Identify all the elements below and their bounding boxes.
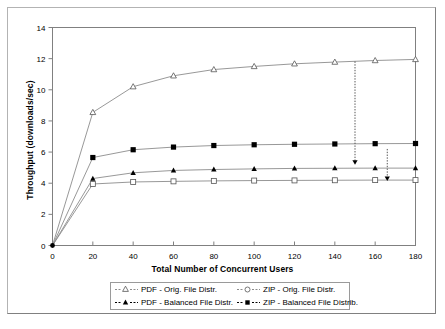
annotation-arrow-head (352, 160, 357, 165)
y-tick-label: 2 (41, 210, 46, 219)
series-1 (53, 178, 419, 246)
legend-entry-pdf-orig: PDF - Orig. File Distr. (111, 284, 233, 295)
y-tick-label: 10 (37, 86, 46, 95)
tick-labels-group: 02468101214020406080100120140160180 (37, 24, 423, 261)
filled-square-marker (332, 141, 337, 146)
filled-square-marker (373, 141, 378, 146)
legend-label: ZIP - Orig. File Distr. (262, 285, 335, 294)
filled-square-icon (236, 297, 262, 308)
series-0 (53, 56, 419, 245)
legend-label: PDF - Orig. File Distr. (140, 285, 217, 294)
filled-square-marker (131, 147, 136, 152)
filled-square-marker (171, 144, 176, 149)
series-line (53, 59, 416, 245)
open-square-marker (292, 178, 297, 183)
filled-triangle-icon (114, 297, 140, 308)
open-square-marker (373, 178, 378, 183)
open-square-marker (252, 178, 257, 183)
y-tick-label: 12 (37, 55, 46, 64)
y-tick-label: 4 (41, 179, 46, 188)
open-square-marker (413, 178, 418, 183)
filled-square-marker (413, 141, 418, 146)
y-tick-label: 8 (41, 117, 46, 126)
legend-entry-pdf-balanced: PDF - Balanced File Distr. (111, 297, 233, 308)
x-axis-title: Total Number of Concurrent Users (0, 264, 445, 274)
x-tick-label: 120 (288, 252, 302, 261)
legend-row-2: PDF - Balanced File Distr. ZIP - Balance… (111, 296, 349, 309)
x-tick-label: 160 (368, 252, 382, 261)
open-square-marker (211, 178, 216, 183)
arrow-pdf-balanced-to-zip-orig (385, 149, 390, 181)
chart-legend: PDF - Orig. File Distr. ZIP - Orig. File… (110, 282, 350, 310)
open-triangle-marker (90, 109, 96, 114)
legend-label: ZIP - Balanced File Distrib. (262, 298, 358, 307)
x-tick-label: 60 (169, 252, 178, 261)
axes-group (49, 28, 416, 246)
x-tick-label: 0 (50, 252, 55, 261)
series-line (53, 180, 416, 245)
series-2 (53, 165, 419, 245)
x-tick-label: 140 (328, 252, 342, 261)
y-tick-label: 0 (41, 242, 46, 251)
chart-plot-area: 02468101214020406080100120140160180 (0, 0, 445, 329)
open-triangle-icon (114, 284, 140, 295)
legend-label: PDF - Balanced File Distr. (140, 298, 233, 307)
legend-entry-zip-orig: ZIP - Orig. File Distr. (233, 284, 345, 295)
open-square-marker (332, 178, 337, 183)
open-triangle-marker (413, 56, 419, 61)
x-tick-label: 100 (247, 252, 261, 261)
series-3 (53, 141, 419, 246)
y-tick-label: 14 (37, 24, 46, 33)
filled-square-marker (252, 142, 257, 147)
y-tick-label: 6 (41, 148, 46, 157)
x-tick-label: 40 (129, 252, 138, 261)
series-line (53, 144, 416, 246)
legend-row-1: PDF - Orig. File Distr. ZIP - Orig. File… (111, 283, 349, 296)
chart-figure: 02468101214020406080100120140160180 Thro… (0, 0, 445, 329)
x-tick-label: 20 (88, 252, 97, 261)
origin-marker (50, 243, 55, 248)
filled-square-marker (211, 143, 216, 148)
filled-square-marker (292, 142, 297, 147)
open-circle-icon (236, 284, 262, 295)
x-tick-label: 80 (209, 252, 218, 261)
arrow-pdf-orig-to-zip-balanced (352, 61, 357, 164)
open-square-marker (131, 179, 136, 184)
filled-square-marker (90, 155, 95, 160)
data-series-group (50, 56, 418, 247)
open-square-marker (171, 179, 176, 184)
annotations-group (352, 61, 389, 181)
legend-entry-zip-balanced: ZIP - Balanced File Distrib. (233, 297, 345, 308)
x-tick-label: 180 (409, 252, 423, 261)
y-axis-title: Throughput (downloads/sec) (25, 40, 35, 240)
